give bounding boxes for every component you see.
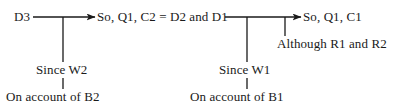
rebuttal-node: Although R1 and R2 <box>277 37 387 51</box>
warrant-node-left: Since W2 <box>36 63 87 77</box>
toulmin-argument-diagram: D3 So, Q1, C2 = D2 and D1 So, Q1, C1 Alt… <box>0 0 398 109</box>
claim-node-right: So, Q1, C1 <box>303 10 362 24</box>
datum-node-left: D3 <box>14 10 30 24</box>
backing-node-right: On account of B1 <box>190 90 284 104</box>
claim-node-middle: So, Q1, C2 = D2 and D1 <box>97 10 228 24</box>
backing-node-left: On account of B2 <box>6 90 100 104</box>
warrant-node-right: Since W1 <box>219 63 270 77</box>
